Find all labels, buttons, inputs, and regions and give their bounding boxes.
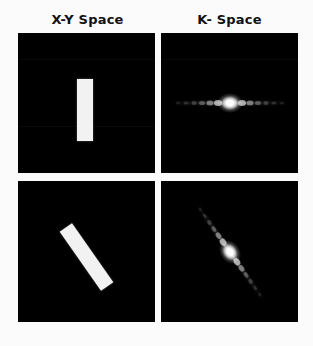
oblique-bar-feature [60, 223, 114, 291]
sinc-side-lobe [237, 264, 245, 273]
sinc-side-lobe [252, 285, 257, 291]
sinc-side-lobe [257, 292, 262, 297]
sinc-side-lobe [202, 213, 207, 219]
panel-k-space-horizontal-sinc [161, 33, 298, 173]
panel-k-space-oblique-sinc [161, 181, 298, 322]
sinc-side-lobe [246, 101, 253, 106]
sinc-side-lobe [176, 102, 180, 105]
vertical-bar-feature [77, 79, 93, 141]
sinc-side-lobe [206, 101, 213, 106]
column-title-k-space: K- Space [161, 10, 298, 30]
sinc-side-lobe [206, 219, 212, 225]
sinc-side-lobe [280, 102, 284, 105]
sinc-side-lobe [247, 278, 253, 284]
sinc-pattern-horizontal [161, 33, 298, 173]
sinc-side-lobe [199, 101, 205, 105]
sinc-pattern-oblique [161, 181, 298, 322]
sinc-side-lobe [183, 102, 188, 105]
sinc-side-lobe [271, 102, 276, 105]
sinc-side-lobe [263, 101, 268, 105]
sinc-side-lobe [255, 101, 261, 105]
panel-seam-artifact [18, 59, 155, 60]
figure-root: X-Y Space K- Space [0, 0, 313, 346]
sinc-side-lobe [197, 206, 202, 211]
panel-xy-space-vertical-bar [18, 33, 155, 173]
panel-xy-space-oblique-bar [18, 181, 155, 322]
column-title-xy-space: X-Y Space [18, 10, 157, 30]
sinc-side-lobe [210, 225, 217, 232]
sinc-side-lobe [191, 101, 196, 105]
sinc-central-lobe [217, 93, 243, 113]
sinc-side-lobe [242, 271, 249, 278]
